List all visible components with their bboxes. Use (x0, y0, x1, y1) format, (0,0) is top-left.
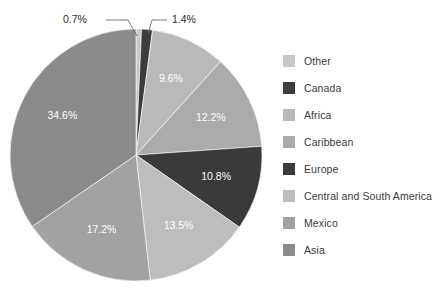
legend-item-label: Asia (304, 244, 325, 256)
legend-item[interactable]: Canada (283, 74, 441, 101)
pie-slice-label: 9.6% (159, 72, 183, 84)
legend-swatch-icon (283, 136, 295, 148)
legend-swatch-icon (283, 190, 295, 202)
legend-swatch-icon (283, 244, 295, 256)
legend-item[interactable]: Africa (283, 101, 441, 128)
legend-item[interactable]: Asia (283, 236, 441, 263)
legend-item[interactable]: Central and South America (283, 182, 441, 209)
legend-swatch-icon (283, 109, 295, 121)
legend-item-label: Central and South America (304, 190, 432, 202)
legend-swatch-icon (283, 217, 295, 229)
legend-item-label: Other (304, 55, 331, 67)
chart-legend: OtherCanadaAfricaCaribbeanEuropeCentral … (283, 47, 441, 263)
pie-slice-label: 34.6% (47, 109, 77, 121)
pie-slice-label: 10.8% (201, 170, 231, 182)
legend-item-label: Canada (304, 82, 341, 94)
pie-slice-label: 17.2% (87, 223, 117, 235)
legend-item[interactable]: Caribbean (283, 128, 441, 155)
legend-item[interactable]: Other (283, 47, 441, 74)
legend-item-label: Caribbean (304, 136, 353, 148)
legend-swatch-icon (283, 163, 295, 175)
legend-item[interactable]: Mexico (283, 209, 441, 236)
legend-item[interactable]: Europe (283, 155, 441, 182)
legend-item-label: Africa (304, 109, 331, 121)
pie-slice-group (10, 29, 262, 281)
pie-chart-svg: 9.6%12.2%10.8%13.5%17.2%34.6% 0.7% 1.4% (0, 0, 270, 292)
pie-slice-label: 13.5% (164, 219, 194, 231)
legend-item-label: Europe (304, 163, 338, 175)
legend-swatch-icon (283, 55, 295, 67)
callout-label-canada: 1.4% (172, 13, 196, 25)
pie-chart-plot-area: 9.6%12.2%10.8%13.5%17.2%34.6% 0.7% 1.4% (0, 0, 270, 292)
pie-chart-figure: 9.6%12.2%10.8%13.5%17.2%34.6% 0.7% 1.4% … (0, 0, 441, 292)
legend-item-label: Mexico (304, 217, 338, 229)
legend-swatch-icon (283, 82, 295, 94)
callout-label-other: 0.7% (63, 13, 87, 25)
pie-slice-label: 12.2% (196, 111, 226, 123)
